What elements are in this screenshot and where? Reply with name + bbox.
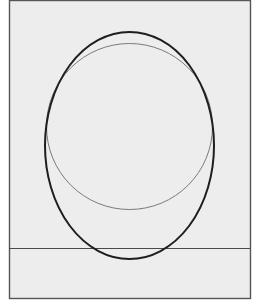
diagram-canvas — [0, 0, 259, 307]
